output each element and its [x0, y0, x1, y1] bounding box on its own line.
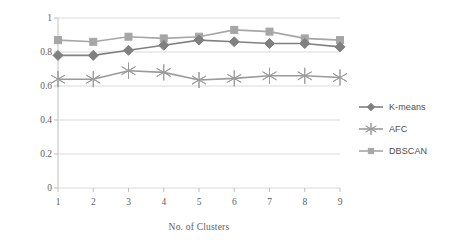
x-tick-label: 9 [330, 196, 350, 208]
chart-legend: K-meansAFCDBSCAN [358, 96, 456, 162]
x-tick-label: 5 [189, 196, 209, 208]
diamond-marker-icon [265, 39, 275, 49]
diamond-marker-icon [358, 100, 384, 114]
legend-label: K-means [389, 102, 426, 112]
x-tick-label: 1 [48, 196, 68, 208]
square-marker-icon [90, 38, 97, 45]
x-tick-label: 2 [83, 196, 103, 208]
square-marker-icon [231, 26, 238, 33]
x-tick-label: 8 [295, 196, 315, 208]
asterisk-marker-icon [358, 122, 384, 136]
square-marker-icon [55, 37, 62, 44]
diamond-marker-icon [367, 103, 375, 111]
legend-label: DBSCAN [389, 146, 427, 156]
x-tick-label: 4 [154, 196, 174, 208]
legend-item-afc[interactable]: AFC [358, 118, 456, 140]
legend-item-dbscan[interactable]: DBSCAN [358, 140, 456, 162]
diamond-marker-icon [124, 45, 134, 55]
x-axis-title: No. of Clusters [58, 222, 340, 232]
legend-item-k-means[interactable]: K-means [358, 96, 456, 118]
square-marker-icon [358, 144, 384, 158]
series-afc [51, 63, 347, 88]
square-marker-icon [125, 33, 132, 40]
legend-label: AFC [389, 124, 407, 134]
x-tick-label: 7 [260, 196, 280, 208]
square-marker-icon [368, 148, 373, 153]
x-tick-label: 6 [224, 196, 244, 208]
diamond-marker-icon [229, 37, 239, 47]
f-measure-line-chart: F-measure 00.20.40.60.81 123456789 No. o… [0, 0, 459, 245]
x-axis-tick-labels: 123456789 [58, 196, 340, 210]
square-marker-icon [266, 28, 273, 35]
x-tick-label: 3 [119, 196, 139, 208]
series-layer [51, 26, 347, 88]
